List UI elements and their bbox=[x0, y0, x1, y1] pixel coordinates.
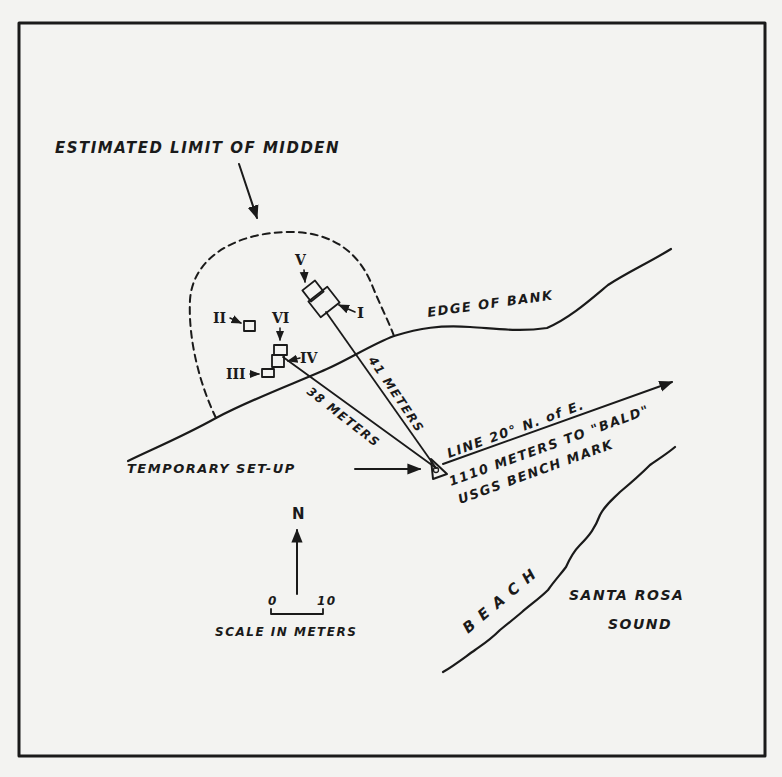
unit-IV-label: IV bbox=[300, 350, 319, 366]
unit-III: III bbox=[226, 366, 274, 382]
north-label: N bbox=[292, 505, 305, 523]
midden-limit-label: ESTIMATED LIMIT OF MIDDEN bbox=[55, 139, 340, 157]
scale-zero-label: 0 bbox=[268, 594, 278, 608]
midden-site-map: ESTIMATED LIMIT OF MIDDEN EDGE OF BANK 4… bbox=[0, 0, 782, 777]
scale-ten-label: 10 bbox=[317, 594, 337, 608]
unit-VI-label: VI bbox=[271, 310, 289, 326]
midden-limit-arrow bbox=[239, 164, 257, 218]
scale-label: SCALE IN METERS bbox=[215, 625, 357, 639]
setup-label: TEMPORARY SET-UP bbox=[127, 461, 296, 476]
beach-shoreline bbox=[443, 447, 675, 672]
unit-V-label: V bbox=[294, 252, 307, 268]
unit-II: II bbox=[213, 310, 255, 331]
bench-mark-line bbox=[443, 382, 672, 464]
water-label-2: SOUND bbox=[608, 616, 672, 632]
unit-IV: IV bbox=[272, 350, 319, 367]
scale-bar bbox=[271, 609, 323, 614]
beach-label: B E A C H bbox=[459, 565, 540, 637]
bank-edge-label: EDGE OF BANK bbox=[426, 287, 554, 320]
unit-III-label: III bbox=[226, 366, 246, 382]
unit-VI: VI bbox=[271, 310, 289, 355]
measure-38-label: 38 METERS bbox=[304, 384, 383, 450]
unit-II-label: II bbox=[213, 310, 226, 326]
unit-I-label: I bbox=[357, 304, 364, 322]
unit-I: I bbox=[308, 287, 364, 322]
water-label-1: SANTA ROSA bbox=[569, 587, 684, 603]
line-to-unit-I bbox=[326, 312, 436, 468]
